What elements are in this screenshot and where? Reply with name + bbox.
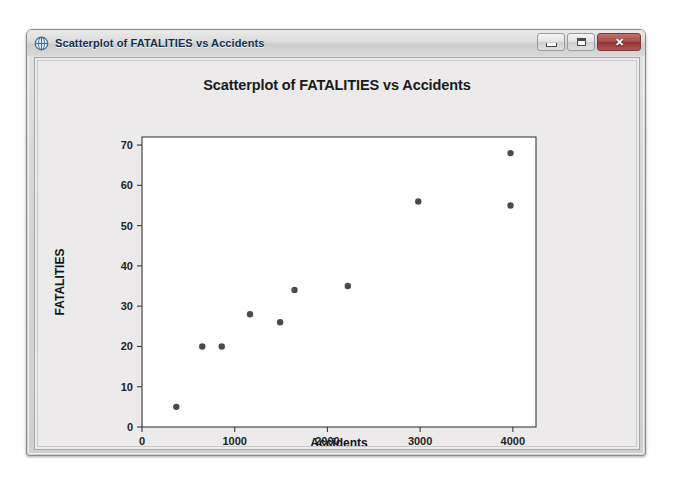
data-point[interactable] [277, 319, 283, 325]
chart-window: Scatterplot of FATALITIES vs Accidents ✕… [26, 29, 646, 456]
data-point[interactable] [247, 311, 253, 317]
y-axis-ticks: 010203040506070 [121, 139, 142, 433]
plot-area-background [142, 137, 536, 427]
y-tick-label: 50 [121, 220, 133, 232]
maximize-button[interactable] [567, 33, 595, 51]
x-axis-title: Accidents [310, 436, 368, 447]
data-point[interactable] [199, 343, 205, 349]
data-point[interactable] [507, 202, 513, 208]
chart-canvas-border: Scatterplot of FATALITIES vs Accidents 0… [37, 60, 637, 447]
y-tick-label: 30 [121, 300, 133, 312]
data-point[interactable] [345, 283, 351, 289]
y-tick-label: 10 [121, 381, 133, 393]
minimize-icon [546, 43, 557, 47]
data-point[interactable] [291, 287, 297, 293]
x-tick-label: 0 [139, 435, 145, 447]
window-title-text: Scatterplot of FATALITIES vs Accidents [55, 37, 265, 49]
x-tick-label: 3000 [408, 435, 432, 447]
scatterplot-chart: Scatterplot of FATALITIES vs Accidents 0… [38, 61, 636, 446]
y-axis-title: FATALITIES [53, 249, 67, 316]
maximize-icon [577, 38, 586, 46]
close-icon: ✕ [615, 37, 624, 48]
y-tick-label: 70 [121, 139, 133, 151]
y-tick-label: 20 [121, 340, 133, 352]
y-tick-label: 60 [121, 179, 133, 191]
data-point[interactable] [173, 404, 179, 410]
data-point[interactable] [415, 198, 421, 204]
minitab-globe-icon [34, 36, 49, 51]
y-tick-label: 40 [121, 260, 133, 272]
y-tick-label: 0 [127, 421, 133, 433]
close-button[interactable]: ✕ [597, 33, 641, 51]
desktop-backdrop: Scatterplot of FATALITIES vs Accidents ✕… [0, 0, 673, 481]
data-point[interactable] [219, 343, 225, 349]
minimize-button[interactable] [537, 33, 565, 51]
x-tick-label: 1000 [222, 435, 246, 447]
chart-client-area: Scatterplot of FATALITIES vs Accidents 0… [34, 57, 640, 450]
plot-svg: 010203040506070 01000200030004000 Accide… [38, 61, 637, 447]
data-point[interactable] [507, 150, 513, 156]
window-controls-group: ✕ [537, 33, 641, 51]
window-titlebar[interactable]: Scatterplot of FATALITIES vs Accidents ✕ [27, 30, 645, 56]
x-tick-label: 4000 [501, 435, 525, 447]
